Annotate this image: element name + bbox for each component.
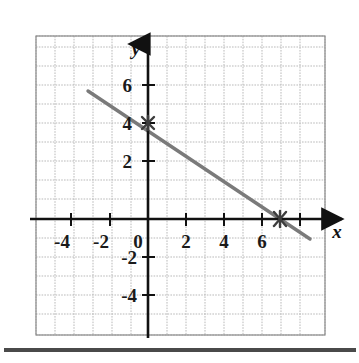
y-tick-label-neg4: -4 [121, 285, 137, 306]
x-axis-label: x [331, 221, 342, 242]
x-tick-label-neg4: -4 [54, 231, 70, 252]
grid-border [36, 36, 325, 335]
x-tick-label-4: 4 [219, 231, 229, 252]
y-tick-label-neg2: -2 [121, 247, 137, 268]
x-tick-label-2: 2 [181, 231, 191, 252]
y-tick-label-2: 2 [123, 151, 133, 172]
x-tick-label-neg2: -2 [93, 231, 109, 252]
graph-canvas: -4 -2 0 2 4 6 6 4 2 -2 -4 y x [0, 0, 359, 363]
page-divider-rule [4, 348, 356, 352]
y-tick-label-4: 4 [123, 113, 133, 134]
x-tick-label-6: 6 [257, 231, 267, 252]
grid-lines [36, 36, 325, 335]
coordinate-graph-figure: -4 -2 0 2 4 6 6 4 2 -2 -4 y x [0, 0, 359, 363]
y-axis-label: y [130, 38, 141, 59]
y-tick-label-6: 6 [123, 75, 133, 96]
